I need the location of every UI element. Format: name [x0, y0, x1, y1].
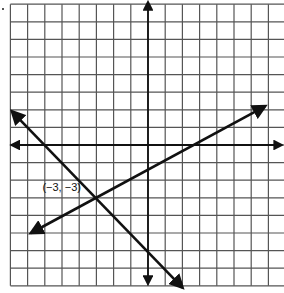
coordinate-plane [0, 0, 284, 293]
intersection-label: (−3, −3) [42, 181, 81, 193]
plotted-lines [12, 106, 265, 287]
axes [11, 2, 282, 284]
line-decreasing [12, 112, 182, 288]
